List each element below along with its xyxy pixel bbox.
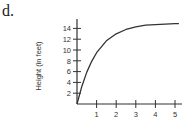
axes (77, 19, 182, 104)
y-tick-label: 2 (67, 89, 71, 98)
y-axis-ticks: 2468101214 (63, 24, 81, 98)
height-curve (77, 24, 179, 104)
y-tick-label: 8 (67, 57, 71, 66)
x-tick-label: 4 (153, 110, 157, 119)
y-axis-title: Height (in feet) (34, 41, 43, 91)
y-tick-label: 10 (63, 46, 71, 55)
x-tick-label: 2 (114, 110, 118, 119)
x-tick-label: 5 (173, 110, 177, 119)
y-tick-label: 12 (63, 35, 71, 44)
y-tick-label: 14 (63, 24, 71, 33)
y-tick-label: 6 (67, 67, 71, 76)
y-tick-label: 4 (67, 78, 71, 87)
line-chart: 12345 2468101214 Height (in feet) (0, 0, 189, 126)
x-tick-label: 3 (134, 110, 138, 119)
x-tick-label: 1 (95, 110, 99, 119)
x-axis-ticks: 12345 (95, 100, 178, 119)
